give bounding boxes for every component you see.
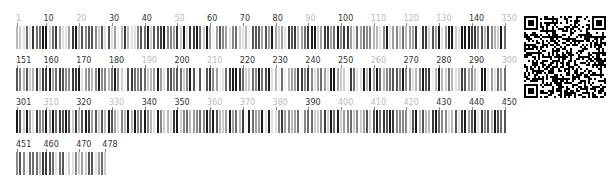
position-bar [500, 110, 502, 133]
position-bar [153, 26, 155, 49]
position-bar [127, 26, 129, 49]
position-bar [180, 110, 182, 133]
position-bar [245, 110, 247, 133]
position-bar [225, 26, 227, 49]
position-bar [363, 68, 365, 91]
position-bar [477, 68, 479, 91]
position-bar [167, 110, 169, 133]
position-bar [59, 68, 61, 91]
position-bar [504, 26, 506, 49]
position-bar [81, 152, 83, 175]
position-bar [81, 26, 83, 49]
position-bar [78, 110, 80, 133]
position-bar [320, 26, 322, 49]
position-bar [232, 110, 234, 133]
position-bar [294, 68, 296, 91]
position-label: 300 [502, 56, 517, 65]
position-bar [383, 26, 385, 49]
position-bar [504, 110, 506, 133]
position-bar [288, 68, 290, 91]
qr-code [524, 16, 606, 98]
position-bar [32, 68, 34, 91]
position-bar [45, 110, 47, 133]
position-bar [170, 110, 172, 133]
position-bar [409, 110, 411, 133]
position-bar [317, 110, 319, 133]
position-bar [324, 26, 326, 49]
position-bar [275, 68, 277, 91]
position-label: 200 [174, 56, 189, 65]
position-bar [307, 68, 309, 91]
position-bar [127, 110, 129, 133]
position-bar [386, 110, 388, 133]
position-bar [297, 26, 299, 49]
position-bar [150, 68, 152, 91]
position-label: 290 [469, 56, 484, 65]
position-bar [491, 26, 493, 49]
position-bar [104, 26, 106, 49]
position-bar [500, 68, 502, 91]
position-bar [448, 26, 450, 49]
position-bar [307, 110, 309, 133]
position-bar [62, 68, 64, 91]
position-bar [186, 26, 188, 49]
position-bar [39, 26, 41, 49]
position-bar [183, 68, 185, 91]
position-bar [111, 26, 113, 49]
position-bar [350, 110, 352, 133]
position-bar [265, 110, 267, 133]
position-label: 478 [102, 140, 117, 149]
position-label: 180 [109, 56, 124, 65]
position-bar [451, 26, 453, 49]
position-bar [16, 152, 18, 175]
position-bar [111, 68, 113, 91]
position-bar [268, 110, 270, 133]
position-bar [301, 26, 303, 49]
position-bar [405, 26, 407, 49]
position-label: 130 [436, 14, 451, 23]
position-bar [189, 26, 191, 49]
position-bar [324, 110, 326, 133]
position-bar [448, 110, 450, 133]
position-bar [42, 26, 44, 49]
position-bar [347, 68, 349, 91]
position-bar [59, 152, 61, 175]
position-bar [327, 68, 329, 91]
position-bar [167, 68, 169, 91]
position-bar [284, 110, 286, 133]
position-bar [101, 152, 103, 175]
position-bar [16, 110, 18, 133]
position-bar [88, 152, 90, 175]
position-bar [137, 110, 139, 133]
position-bar [23, 68, 25, 91]
position-label: 370 [240, 98, 255, 107]
position-bar [258, 26, 260, 49]
position-bar [376, 68, 378, 91]
position-bar [261, 110, 263, 133]
position-bar [59, 110, 61, 133]
position-label: 340 [142, 98, 157, 107]
position-bar [281, 110, 283, 133]
position-bar [16, 26, 18, 49]
position-bar [95, 110, 97, 133]
position-bar [29, 26, 31, 49]
position-label: 230 [273, 56, 288, 65]
position-label: 260 [371, 56, 386, 65]
position-bar [461, 68, 463, 91]
position-bar [111, 110, 113, 133]
position-bar [441, 110, 443, 133]
position-bar [101, 26, 103, 49]
position-bar [386, 26, 388, 49]
position-bar [85, 152, 87, 175]
position-bar [36, 152, 38, 175]
position-bar [340, 26, 342, 49]
position-label: 210 [207, 56, 222, 65]
position-bar [117, 68, 119, 91]
position-bar [497, 26, 499, 49]
position-label: 451 [16, 140, 31, 149]
position-bar [468, 110, 470, 133]
position-bar [402, 68, 404, 91]
position-bar [108, 26, 110, 49]
position-bar [19, 152, 21, 175]
position-bar [193, 26, 195, 49]
